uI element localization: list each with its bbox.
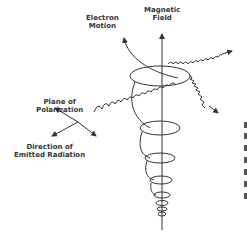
- cropped-text-fragment: [244, 157, 247, 163]
- helix-loop-1: [130, 66, 190, 86]
- emitted-radiation-wave-left: [94, 83, 175, 112]
- cropped-text-fragment: [244, 133, 247, 139]
- cropped-text-fragment: [244, 193, 247, 199]
- emitted-radiation-wave-lower-right: [190, 75, 205, 108]
- cropped-text-fragment: [244, 181, 247, 187]
- synchrotron-radiation-diagram: [0, 0, 247, 242]
- magnetic-field-label: Magnetic Field: [144, 6, 180, 22]
- cropped-text-fragment: [244, 169, 247, 175]
- cropped-text-fragment: [244, 145, 247, 151]
- electron-motion-label: Electron Motion: [86, 14, 119, 30]
- emitted-radiation-wave-upper-right: [168, 54, 222, 64]
- direction-of-emitted-radiation-label: Direction of Emitted Radiation: [14, 143, 85, 159]
- radiation-direction-arrow: [52, 122, 78, 136]
- plane-of-polarization-label: Plane of Polarization: [36, 98, 83, 114]
- cropped-text-fragment: [244, 122, 247, 128]
